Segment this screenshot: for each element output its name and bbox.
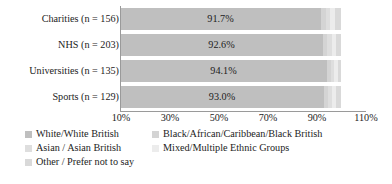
legend-item-white[interactable]: White/White British [25,128,119,140]
legend-swatch-icon [152,131,159,138]
bar-data-label: 92.6% [121,34,322,56]
chart-legend: White/White British Black/African/Caribb… [0,126,392,184]
legend-label: White/White British [36,128,119,140]
legend-label: Asian / Asian British [36,142,121,154]
legend-item-asian[interactable]: Asian / Asian British [25,142,121,154]
category-label-universities: Universities (n = 135) [0,65,119,76]
category-label-sports: Sports (n = 129) [0,91,119,102]
legend-item-mixed[interactable]: Mixed/Multiple Ethnic Groups [152,142,289,154]
x-tick-90: 90% [297,112,337,124]
bar-data-label: 93.0% [121,86,323,108]
legend-swatch-icon [25,145,32,152]
bar-segment-other [336,86,341,108]
legend-swatch-icon [152,145,159,152]
stacked-bar-chart: Charities (n = 156) NHS (n = 203) Univer… [0,0,392,184]
legend-item-other[interactable]: Other / Prefer not to say [25,156,134,168]
plot-area: Charities (n = 156) NHS (n = 203) Univer… [0,0,392,124]
legend-swatch-icon [25,131,32,138]
legend-item-black[interactable]: Black/African/Caribbean/Black British [152,128,322,140]
x-tick-50: 50% [199,112,239,124]
legend-label: Other / Prefer not to say [36,156,134,168]
x-tick-70: 70% [248,112,288,124]
x-tick-10: 10% [101,112,141,124]
bar-segment-other [338,60,341,82]
bar-segment-other [336,34,342,56]
x-tick-110: 110% [346,112,386,124]
category-label-charities: Charities (n = 156) [0,13,119,24]
x-tick-30: 30% [150,112,190,124]
legend-label: Black/African/Caribbean/Black British [163,128,322,140]
bar-data-label: 91.7% [121,8,320,30]
category-label-nhs: NHS (n = 203) [0,39,119,50]
bar-data-label: 94.1% [121,60,326,82]
legend-swatch-icon [25,159,32,166]
bar-segment-other [335,8,341,30]
legend-label: Mixed/Multiple Ethnic Groups [163,142,289,154]
